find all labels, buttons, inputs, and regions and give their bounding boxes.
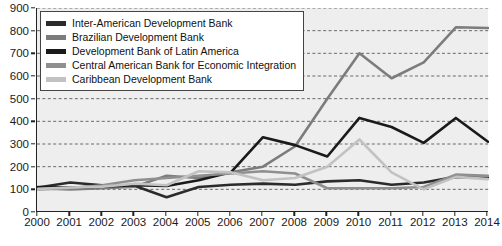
x-axis-tick-mark <box>229 212 230 216</box>
y-axis-tick-label: 200 <box>0 161 29 173</box>
x-axis-tick-mark <box>486 212 487 216</box>
series-line-2 <box>38 118 488 188</box>
y-axis-tick-mark <box>31 189 35 190</box>
legend-item-label: Caribbean Development Bank <box>72 72 212 86</box>
y-axis-tick-mark <box>31 53 35 54</box>
x-axis-tick-mark <box>390 212 391 216</box>
x-axis-tick-label: 2008 <box>281 216 307 228</box>
legend-item-label: Development Bank of Latin America <box>72 44 239 58</box>
x-axis-tick-mark <box>293 212 294 216</box>
y-axis-tick-mark <box>31 30 35 31</box>
x-axis-tick-label: 2010 <box>346 216 372 228</box>
y-axis-tick-mark <box>31 143 35 144</box>
y-axis-tick-mark <box>31 211 35 212</box>
x-axis-tick-mark <box>358 212 359 216</box>
x-axis-tick-mark <box>422 212 423 216</box>
legend-color-swatch <box>46 49 66 54</box>
x-axis-tick-mark <box>68 212 69 216</box>
y-axis-tick-mark <box>31 166 35 167</box>
legend-item[interactable]: Caribbean Development Bank <box>46 72 296 86</box>
x-axis-tick-mark <box>36 212 37 216</box>
y-axis: 0100200300400500600700800900 <box>0 0 36 246</box>
legend-item[interactable]: Central American Bank for Economic Integ… <box>46 58 296 72</box>
x-axis-tick-label: 2007 <box>249 216 275 228</box>
x-axis-tick-label: 2002 <box>88 216 114 228</box>
line-chart: 0100200300400500600700800900 20002001200… <box>0 0 502 246</box>
y-axis-tick-label: 700 <box>0 47 29 59</box>
x-axis-tick-mark <box>454 212 455 216</box>
x-axis-tick-mark <box>326 212 327 216</box>
x-axis-tick-label: 2000 <box>24 216 50 228</box>
y-axis-tick-label: 100 <box>0 183 29 195</box>
y-axis-tick-label: 800 <box>0 25 29 37</box>
y-axis-tick-label: 400 <box>0 115 29 127</box>
x-axis-tick-mark <box>133 212 134 216</box>
legend-color-swatch <box>46 63 66 68</box>
legend-item[interactable]: Development Bank of Latin America <box>46 44 296 58</box>
legend-item[interactable]: Inter-American Development Bank <box>46 16 296 30</box>
x-axis-tick-label: 2005 <box>185 216 211 228</box>
x-axis-tick-mark <box>261 212 262 216</box>
legend-color-swatch <box>46 77 66 82</box>
x-axis-tick-mark <box>101 212 102 216</box>
chart-legend: Inter-American Development BankBrazilian… <box>40 11 304 91</box>
x-axis-tick-mark <box>197 212 198 216</box>
x-axis-tick-mark <box>165 212 166 216</box>
legend-item-label: Brazilian Development Bank <box>72 30 204 44</box>
y-axis-tick-mark <box>31 7 35 8</box>
y-axis-tick-mark <box>31 75 35 76</box>
y-axis-tick-label: 300 <box>0 138 29 150</box>
x-axis-tick-label: 2012 <box>410 216 436 228</box>
x-axis-tick-label: 2011 <box>378 216 403 228</box>
y-axis-tick-label: 500 <box>0 93 29 105</box>
legend-color-swatch <box>46 35 66 40</box>
x-axis-tick-label: 2003 <box>121 216 147 228</box>
y-axis-tick-mark <box>31 121 35 122</box>
x-axis-tick-label: 2001 <box>56 216 82 228</box>
x-axis-tick-label: 2013 <box>442 216 468 228</box>
y-axis-tick-label: 600 <box>0 70 29 82</box>
legend-item-label: Inter-American Development Bank <box>72 16 233 30</box>
y-axis-tick-label: 900 <box>0 2 29 14</box>
x-axis-tick-label: 2014 <box>474 216 500 228</box>
y-axis-tick-mark <box>31 98 35 99</box>
x-axis-tick-label: 2006 <box>217 216 243 228</box>
x-axis-tick-label: 2009 <box>313 216 339 228</box>
x-axis-tick-label: 2004 <box>153 216 179 228</box>
legend-item-label: Central American Bank for Economic Integ… <box>72 58 296 72</box>
legend-color-swatch <box>46 21 66 26</box>
legend-item[interactable]: Brazilian Development Bank <box>46 30 296 44</box>
